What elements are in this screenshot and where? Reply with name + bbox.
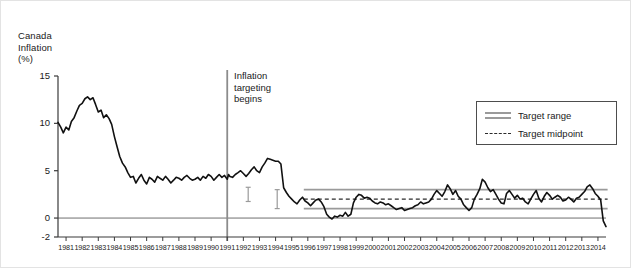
y-tick-label-0: 15 xyxy=(28,70,50,81)
chart-legend: Target range Target midpoint xyxy=(476,101,617,145)
inflation-chart-figure: Canada Inflation (%) Inflation targeting… xyxy=(0,0,632,269)
target-midpoint-swatch-icon xyxy=(485,128,511,138)
x-tick-label-33: 2014 xyxy=(583,243,613,252)
legend-label-target-midpoint: Target midpoint xyxy=(518,128,583,139)
legend-label-target-range: Target range xyxy=(518,110,571,121)
y-tick-label-3: 0 xyxy=(28,212,50,223)
legend-item-target-range: Target range xyxy=(485,108,571,122)
y-tick-label-1: 10 xyxy=(28,117,50,128)
target-range-swatch-icon xyxy=(485,110,511,120)
legend-item-target-midpoint: Target midpoint xyxy=(485,126,583,140)
y-tick-label-2: 5 xyxy=(28,165,50,176)
y-tick-label-4: -2 xyxy=(28,231,50,242)
